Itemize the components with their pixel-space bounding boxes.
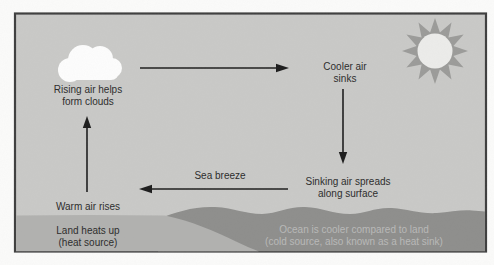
figure-stage: Rising air helps form clouds Cooler air … [0,0,494,265]
sea-breeze-diagram: Rising air helps form clouds Cooler air … [0,0,494,265]
scan-noise-overlay [0,0,494,265]
